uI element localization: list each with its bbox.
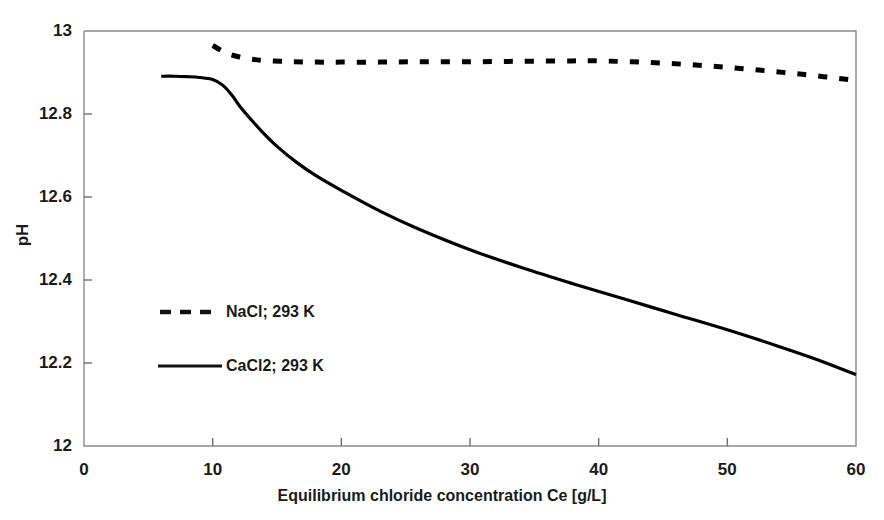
legend-label-cacl2: CaCl2; 293 K bbox=[226, 357, 324, 375]
x-axis-tick-label: 50 bbox=[718, 460, 737, 480]
y-axis-tick-label: 12.6 bbox=[39, 187, 72, 207]
data-series-group bbox=[161, 46, 856, 375]
y-axis-tick-label: 13 bbox=[53, 21, 72, 41]
y-axis-title: pH bbox=[13, 224, 33, 247]
x-axis-tick-label: 20 bbox=[332, 460, 351, 480]
legend-label-nacl: NaCl; 293 K bbox=[226, 303, 315, 321]
y-axis-ticks bbox=[84, 114, 92, 363]
x-axis-tick-label: 0 bbox=[79, 460, 88, 480]
x-axis-tick-label: 30 bbox=[461, 460, 480, 480]
x-axis-tick-label: 40 bbox=[589, 460, 608, 480]
axis-frame bbox=[84, 31, 856, 446]
x-axis-tick-label: 60 bbox=[847, 460, 866, 480]
chart-figure: pH Equilibrium chloride concentration Ce… bbox=[0, 0, 884, 520]
series-line-nacl bbox=[213, 46, 856, 81]
series-line-cacl2 bbox=[161, 76, 856, 374]
y-axis-tick-label: 12.8 bbox=[39, 104, 72, 124]
x-axis-title: Equilibrium chloride concentration Ce [g… bbox=[0, 487, 884, 505]
y-axis-tick-label: 12 bbox=[53, 436, 72, 456]
chart-plot-area bbox=[0, 0, 884, 520]
x-axis-ticks bbox=[213, 438, 728, 446]
x-axis-tick-label: 10 bbox=[203, 460, 222, 480]
y-axis-tick-label: 12.2 bbox=[39, 353, 72, 373]
y-axis-tick-label: 12.4 bbox=[39, 270, 72, 290]
legend-swatches bbox=[158, 312, 222, 366]
